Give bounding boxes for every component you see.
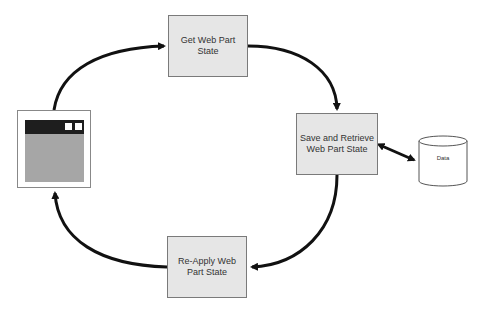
window-button-icon <box>75 123 82 130</box>
arrow-get-to-save <box>248 46 337 109</box>
reapply-node: Re-Apply Web Part State <box>167 236 247 298</box>
get-state-label: Get Web Part State <box>171 35 245 57</box>
arrow-window-to-get <box>54 46 164 110</box>
get-state-node: Get Web Part State <box>168 15 248 77</box>
reapply-label: Re-Apply Web Part State <box>170 256 244 278</box>
window-title-bar <box>25 120 84 134</box>
data-store-label: Data <box>419 155 467 161</box>
arrow-save-data-bidirectional <box>382 146 414 160</box>
save-retrieve-node: Save and Retrieve Web Part State <box>296 113 378 175</box>
database-cylinder-icon <box>419 136 467 186</box>
window-body <box>25 134 84 182</box>
window-button-icon <box>65 123 72 130</box>
arrow-save-to-reapply <box>252 175 337 267</box>
arrow-reapply-to-window <box>55 193 167 267</box>
save-retrieve-label: Save and Retrieve Web Part State <box>299 133 375 155</box>
web-part-window-icon <box>17 110 91 188</box>
